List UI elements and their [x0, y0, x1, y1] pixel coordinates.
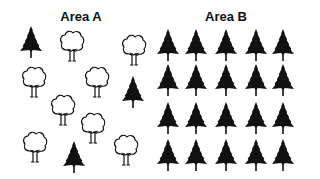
deciduous-tree-icon: [113, 134, 139, 166]
pine-tree-icon: [272, 64, 294, 96]
pine-tree-icon: [185, 29, 207, 61]
pine-tree-icon: [215, 139, 237, 171]
pine-tree-icon: [122, 76, 144, 108]
pine-tree-icon: [157, 29, 179, 61]
pine-tree-icon: [157, 102, 179, 134]
pine-tree-icon: [185, 64, 207, 96]
pine-tree-icon: [272, 139, 294, 171]
deciduous-tree-icon: [22, 131, 48, 163]
pine-tree-icon: [272, 29, 294, 61]
pine-tree-icon: [185, 139, 207, 171]
deciduous-tree-icon: [84, 66, 110, 98]
pine-tree-icon: [63, 141, 85, 173]
pine-tree-icon: [245, 29, 267, 61]
deciduous-tree-icon: [80, 112, 106, 144]
pine-tree-icon: [245, 139, 267, 171]
deciduous-tree-icon: [21, 66, 47, 98]
area-b-heading: Area B: [205, 9, 247, 24]
area-a-heading: Area A: [60, 9, 101, 24]
pine-tree-icon: [20, 26, 42, 58]
pine-tree-icon: [245, 64, 267, 96]
deciduous-tree-icon: [121, 34, 147, 66]
pine-tree-icon: [272, 102, 294, 134]
pine-tree-icon: [157, 139, 179, 171]
deciduous-tree-icon: [59, 30, 85, 62]
deciduous-tree-icon: [50, 94, 76, 126]
pine-tree-icon: [215, 29, 237, 61]
pine-tree-icon: [157, 64, 179, 96]
pine-tree-icon: [185, 102, 207, 134]
pine-tree-icon: [245, 102, 267, 134]
pine-tree-icon: [215, 64, 237, 96]
pine-tree-icon: [215, 102, 237, 134]
